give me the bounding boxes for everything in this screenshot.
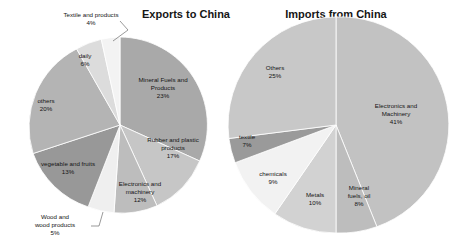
svg-text:Products: Products	[151, 84, 175, 91]
imports-pie-slices	[228, 17, 449, 233]
dual-pie-chart-figure: Exports to China Mineral Fuels and Produ…	[0, 0, 458, 250]
svg-text:4%: 4%	[87, 19, 96, 26]
svg-text:daily: daily	[79, 52, 93, 59]
svg-text:Electronics and: Electronics and	[375, 102, 418, 109]
svg-text:9%: 9%	[269, 178, 278, 185]
svg-text:others: others	[37, 97, 54, 104]
svg-text:7%: 7%	[243, 141, 252, 148]
svg-text:10%: 10%	[309, 199, 322, 206]
svg-text:vegetable and fruits: vegetable and fruits	[41, 160, 95, 167]
svg-text:fuels, oil: fuels, oil	[348, 192, 371, 199]
svg-text:Mineral: Mineral	[349, 184, 369, 191]
svg-text:Textile and products: Textile and products	[63, 11, 118, 18]
svg-text:Metals: Metals	[306, 191, 324, 198]
svg-text:textile: textile	[239, 133, 256, 140]
svg-text:25%: 25%	[269, 72, 282, 79]
svg-text:8%: 8%	[355, 200, 364, 207]
svg-text:12%: 12%	[134, 196, 147, 203]
svg-text:23%: 23%	[157, 92, 170, 99]
svg-text:41%: 41%	[390, 118, 403, 125]
svg-text:Others: Others	[266, 64, 285, 71]
svg-text:Machinery: Machinery	[382, 110, 411, 117]
svg-text:machinery: machinery	[126, 188, 155, 195]
svg-text:Mineral Fuels and: Mineral Fuels and	[138, 76, 188, 83]
svg-text:products: products	[161, 144, 185, 151]
svg-text:Wood and: Wood and	[41, 213, 70, 220]
label-others: others 20%	[37, 97, 54, 112]
svg-text:chemicals: chemicals	[259, 170, 287, 177]
svg-text:Electronics and: Electronics and	[119, 180, 162, 187]
svg-text:13%: 13%	[62, 168, 75, 175]
svg-text:6%: 6%	[81, 60, 90, 67]
svg-text:20%: 20%	[40, 105, 53, 112]
svg-text:Rubber and plastic: Rubber and plastic	[147, 136, 199, 143]
svg-text:5%: 5%	[51, 229, 60, 236]
exports-chart-title: Exports to China	[142, 8, 231, 20]
svg-text:17%: 17%	[167, 152, 180, 159]
svg-text:wood products: wood products	[34, 221, 75, 228]
